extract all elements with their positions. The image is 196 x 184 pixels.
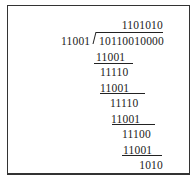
dividend: 10110010000	[99, 35, 164, 47]
step-4-line	[122, 155, 162, 156]
step-2-remainder: 11110	[110, 97, 138, 109]
step-1-subtract: 11001	[96, 51, 125, 63]
final-remainder: 1010	[130, 159, 163, 171]
step-1-line	[94, 63, 133, 64]
step-1-remainder: 11110	[100, 66, 128, 78]
step-2-line	[100, 93, 145, 94]
step-3-line	[112, 124, 155, 125]
step-3-remainder: 11100	[122, 128, 151, 140]
quotient: 1101010	[110, 19, 163, 31]
divisor: 11001	[61, 35, 90, 47]
